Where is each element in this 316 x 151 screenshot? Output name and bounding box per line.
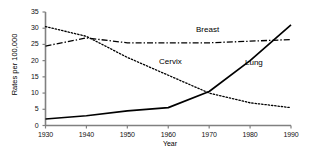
x-tick-label: 1950 bbox=[114, 131, 140, 138]
series-label-cervix: Cervix bbox=[159, 57, 182, 66]
y-tick-label: 10 bbox=[23, 89, 39, 96]
x-tick-label: 1930 bbox=[33, 131, 59, 138]
y-tick-label: 0 bbox=[23, 122, 39, 129]
y-tick-label: 25 bbox=[23, 40, 39, 47]
x-axis-title: Year bbox=[150, 140, 190, 147]
line-chart: 05101520253035 1930194019501960197019801… bbox=[0, 0, 316, 151]
y-tick-label: 20 bbox=[23, 57, 39, 64]
y-tick-label: 30 bbox=[23, 24, 39, 31]
x-tick-label: 1960 bbox=[155, 131, 181, 138]
x-tick-label: 1990 bbox=[278, 131, 304, 138]
series-label-breast: Breast bbox=[196, 25, 219, 34]
plot-area bbox=[0, 0, 316, 151]
x-tick-label: 1970 bbox=[196, 131, 222, 138]
series-line-breast bbox=[46, 38, 292, 46]
y-tick-label: 15 bbox=[23, 73, 39, 80]
x-tick-label: 1940 bbox=[73, 131, 99, 138]
series-label-lung: Lung bbox=[245, 58, 263, 67]
y-tick-label: 35 bbox=[23, 8, 39, 15]
y-tick-label: 5 bbox=[23, 105, 39, 112]
y-axis-title: Rates per 100,000 bbox=[10, 20, 19, 110]
x-tick-label: 1980 bbox=[237, 131, 263, 138]
